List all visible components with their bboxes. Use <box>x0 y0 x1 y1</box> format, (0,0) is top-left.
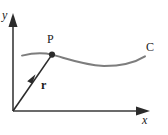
y-axis-arrowhead <box>9 13 18 27</box>
vector-diagram-figure: y x P C r <box>0 0 168 135</box>
vector-r-label: r <box>41 79 46 91</box>
point-p-label: P <box>47 33 54 45</box>
point-p-marker <box>49 52 55 58</box>
y-axis-label: y <box>2 9 7 21</box>
curve-c-path <box>22 53 145 66</box>
curve-c-label: C <box>146 41 154 53</box>
x-axis-label: x <box>142 114 147 126</box>
